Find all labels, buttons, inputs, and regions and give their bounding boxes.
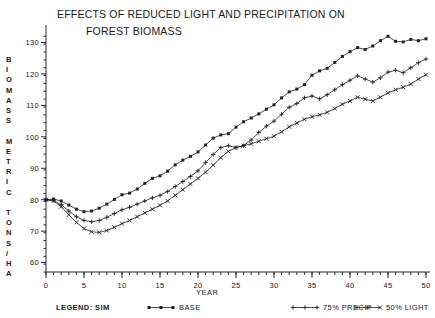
legend-label: BASE: [179, 303, 201, 312]
marker-plus: [303, 305, 307, 309]
x-tick-label: 30: [270, 281, 279, 290]
marker-cross: [166, 199, 170, 203]
x-tick-label: 40: [346, 281, 355, 290]
marker-cross: [173, 193, 177, 197]
marker-plus: [355, 74, 359, 78]
y-axis-title-char: M: [6, 137, 12, 146]
marker-square: [181, 159, 184, 162]
y-axis-title-char: B: [6, 55, 12, 64]
marker-square: [318, 69, 321, 72]
x-tick-label: 45: [384, 281, 393, 290]
y-tick-label: 80: [30, 196, 39, 205]
marker-plus: [97, 218, 101, 222]
x-tick-label: 0: [44, 281, 48, 290]
marker-square: [219, 133, 222, 136]
marker-cross: [219, 156, 223, 160]
y-axis-title-char: T: [6, 157, 11, 166]
marker-square: [303, 83, 306, 86]
x-tick-label: 50: [422, 281, 431, 290]
y-axis: 60708090100110120130: [26, 25, 46, 272]
y-axis-title-char: M: [6, 86, 12, 95]
biomass-line-chart: EFFECTS OF REDUCED LIGHT AND PRECIPITATI…: [0, 0, 435, 318]
marker-cross: [226, 149, 230, 153]
marker-square: [341, 55, 344, 58]
marker-cross: [302, 117, 306, 121]
y-axis-title-char: C: [6, 188, 12, 197]
marker-square: [356, 46, 359, 49]
marker-square: [204, 144, 207, 147]
x-tick-label: 15: [156, 281, 165, 290]
marker-square: [409, 38, 412, 41]
marker-square: [128, 192, 131, 195]
chart-legend: LEGEND: SIMBASE75% PRECIP50% LIGHT: [56, 303, 429, 312]
y-tick-label: 110: [26, 101, 39, 110]
marker-square: [75, 208, 78, 211]
marker-cross: [409, 82, 413, 86]
marker-plus: [181, 179, 185, 183]
marker-plus: [401, 71, 405, 75]
marker-square: [235, 126, 238, 129]
marker-cross: [143, 211, 147, 215]
y-axis-title-char: O: [6, 75, 12, 84]
x-tick-label: 35: [308, 281, 317, 290]
marker-plus: [317, 97, 321, 101]
marker-cross: [416, 77, 420, 81]
marker-cross: [112, 225, 116, 229]
marker-plus: [340, 82, 344, 86]
marker-cross: [401, 85, 405, 89]
marker-cross: [82, 227, 86, 231]
plot-series-group: [44, 35, 428, 235]
marker-square: [172, 306, 175, 309]
y-tick-label: 70: [30, 227, 39, 236]
series-75-precip: [44, 57, 428, 224]
y-tick-label: 130: [26, 38, 39, 47]
marker-cross: [150, 207, 154, 211]
marker-square: [371, 45, 374, 48]
marker-square: [148, 306, 151, 309]
marker-square: [288, 90, 291, 93]
marker-square: [402, 40, 405, 43]
marker-square: [83, 210, 86, 213]
marker-cross: [272, 134, 276, 138]
marker-plus: [416, 60, 420, 64]
marker-cross: [204, 170, 208, 174]
marker-square: [159, 174, 162, 177]
marker-cross: [386, 91, 390, 95]
x-axis: 05101520253035404550: [44, 272, 431, 290]
y-axis-title-char: A: [6, 96, 12, 105]
series-50-light: [44, 73, 428, 235]
marker-cross: [257, 139, 261, 143]
marker-plus: [315, 305, 319, 309]
y-axis-title-char: H: [6, 259, 11, 268]
y-tick-label: 100: [26, 133, 39, 142]
marker-cross: [325, 110, 329, 114]
marker-square: [326, 67, 329, 70]
legend-label: 50% LIGHT: [386, 303, 429, 312]
y-axis-title-char: I: [6, 177, 8, 186]
y-axis-title-char: N: [6, 228, 11, 237]
marker-square: [98, 207, 101, 210]
marker-cross: [348, 99, 352, 103]
marker-square: [166, 170, 169, 173]
marker-square: [280, 96, 283, 99]
marker-cross: [394, 88, 398, 92]
marker-square: [113, 198, 116, 201]
marker-square: [197, 150, 200, 153]
marker-plus: [291, 305, 295, 309]
y-tick-label: 90: [30, 164, 39, 173]
marker-square: [136, 188, 139, 191]
marker-plus: [120, 208, 124, 212]
chart-title-group: EFFECTS OF REDUCED LIGHT AND PRECIPITATI…: [57, 8, 345, 37]
marker-cross: [196, 176, 200, 180]
marker-plus: [173, 184, 177, 188]
marker-square: [364, 48, 367, 51]
marker-cross: [67, 213, 71, 217]
y-axis-title-char: S: [6, 106, 11, 115]
x-tick-label: 10: [118, 281, 127, 290]
marker-plus: [424, 57, 428, 61]
marker-cross: [188, 182, 192, 186]
marker-plus: [325, 93, 329, 97]
marker-square: [273, 103, 276, 106]
chart-title-line2: FOREST BIOMASS: [86, 25, 182, 37]
y-axis-title-char: S: [6, 116, 11, 125]
